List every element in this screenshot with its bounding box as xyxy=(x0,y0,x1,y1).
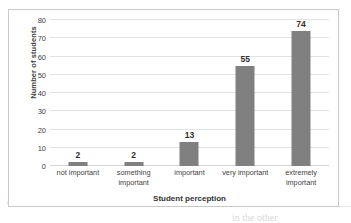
x-axis-tick: important xyxy=(162,168,218,187)
y-axis-tick: 20 xyxy=(38,125,46,134)
y-axis-tick: 0 xyxy=(42,162,46,171)
y-axis-title: Number of students xyxy=(29,15,38,111)
y-axis-tick: 80 xyxy=(38,16,46,25)
y-axis-tick: 30 xyxy=(38,107,46,116)
scan-artifact-text-right-bottom: in the other xyxy=(232,212,278,223)
bar-slot: 2 xyxy=(106,20,162,166)
bar-value-label: 74 xyxy=(296,19,305,29)
y-axis-tick: 50 xyxy=(38,70,46,79)
bar[interactable] xyxy=(124,162,143,166)
y-axis-tick: 60 xyxy=(38,52,46,61)
bar[interactable] xyxy=(180,142,199,166)
bar-chart: Number of students 01020304050607080 221… xyxy=(8,9,339,207)
x-axis-tick: somethingimportant xyxy=(106,168,162,187)
bar-slot: 2 xyxy=(50,20,106,166)
x-axis-title: Student perception xyxy=(50,194,329,203)
x-axis-tick: extremelyimportant xyxy=(273,168,329,187)
bar-value-label: 55 xyxy=(241,54,250,64)
bar-series: 22135574 xyxy=(50,20,329,166)
bar-slot: 74 xyxy=(273,20,329,166)
bar-value-label: 13 xyxy=(185,130,194,140)
bar-slot: 13 xyxy=(162,20,218,166)
y-axis-tick: 40 xyxy=(38,89,46,98)
y-axis-tick: 70 xyxy=(38,34,46,43)
x-axis-tick: very important xyxy=(217,168,273,187)
bar[interactable] xyxy=(68,162,87,166)
bar[interactable] xyxy=(236,66,255,166)
bar-slot: 55 xyxy=(217,20,273,166)
y-axis-tick: 10 xyxy=(38,143,46,152)
x-axis-tick-labels: not importantsomethingimportantimportant… xyxy=(50,168,329,187)
bar-value-label: 2 xyxy=(76,150,81,160)
plot-area: 01020304050607080 22135574 xyxy=(50,20,329,166)
bar-value-label: 2 xyxy=(131,150,136,160)
x-axis-tick: not important xyxy=(50,168,106,187)
bar[interactable] xyxy=(292,31,311,166)
